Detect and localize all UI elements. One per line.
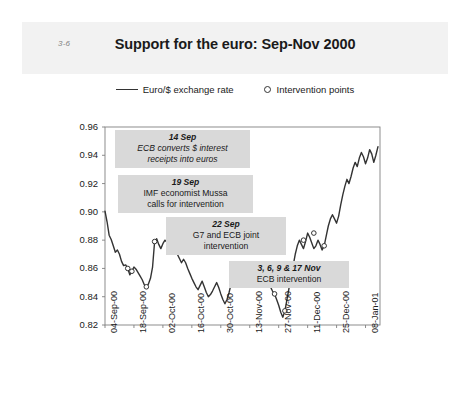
x-axis-tick-label: 04-Sep-00 xyxy=(109,291,119,333)
intervention-point-marker xyxy=(272,292,277,297)
intervention-point-marker xyxy=(312,231,317,236)
x-axis-tick-label: 08-Jan-01 xyxy=(370,292,380,333)
chart-annotation: 14 SepECB converts $ interestreceipts in… xyxy=(115,130,250,168)
x-axis-tick-label: 18-Sep-00 xyxy=(138,291,148,333)
x-axis-tick-label: 13-Nov-00 xyxy=(254,291,264,333)
annotation-text: G7 and ECB joint xyxy=(171,230,281,241)
y-axis-tick-label: 0.92 xyxy=(64,178,98,189)
y-axis-tick-label: 0.82 xyxy=(64,319,98,330)
intervention-point-marker xyxy=(130,269,135,274)
annotation-text: receipts into euros xyxy=(120,154,245,165)
y-axis-tick-label: 0.94 xyxy=(64,149,98,160)
annotation-text: intervention xyxy=(171,241,281,252)
annotation-text: ECB intervention xyxy=(234,274,344,285)
annotation-text: ECB converts $ interest xyxy=(120,143,245,154)
slide: 3-6 Support for the euro: Sep-Nov 2000 E… xyxy=(22,22,448,375)
x-axis-tick-label: 27-Nov-00 xyxy=(283,291,293,333)
annotation-heading: 3, 6, 9 & 17 Nov xyxy=(234,263,344,274)
intervention-point-marker xyxy=(322,244,327,249)
intervention-point-marker xyxy=(152,239,157,244)
x-axis-tick-label: 02-Oct-00 xyxy=(167,293,177,333)
page-title: Support for the euro: Sep-Nov 2000 xyxy=(22,36,448,52)
y-axis-tick-label: 0.90 xyxy=(64,206,98,217)
annotation-heading: 22 Sep xyxy=(171,219,281,230)
annotation-heading: 19 Sep xyxy=(123,177,248,188)
intervention-point-marker xyxy=(144,285,149,290)
x-axis-tick-label: 25-Dec-00 xyxy=(341,291,351,333)
chart-area: Euro/$ exchange rate Intervention points… xyxy=(22,74,448,375)
annotation-text: calls for intervention xyxy=(123,199,248,210)
chart-annotation: 3, 6, 9 & 17 NovECB intervention xyxy=(229,261,349,288)
y-axis-tick-label: 0.86 xyxy=(64,262,98,273)
y-axis-tick-label: 0.84 xyxy=(64,291,98,302)
x-axis-tick-label: 11-Dec-00 xyxy=(312,292,322,333)
plot-wrapper: 0.820.840.860.880.900.920.940.96 04-Sep-… xyxy=(22,74,448,375)
y-axis-tick-label: 0.96 xyxy=(64,121,98,132)
x-axis-tick-label: 30-Oct-00 xyxy=(225,293,235,333)
chart-annotation: 22 SepG7 and ECB jointintervention xyxy=(166,217,286,255)
annotation-heading: 14 Sep xyxy=(120,132,245,143)
intervention-point-marker xyxy=(125,266,130,271)
x-axis-tick-label: 16-Oct-00 xyxy=(196,293,206,333)
intervention-point-marker xyxy=(301,238,306,243)
y-axis-tick-label: 0.88 xyxy=(64,234,98,245)
chart-annotation: 19 SepIMF economist Mussacalls for inter… xyxy=(118,175,253,213)
annotation-text: IMF economist Mussa xyxy=(123,188,248,199)
